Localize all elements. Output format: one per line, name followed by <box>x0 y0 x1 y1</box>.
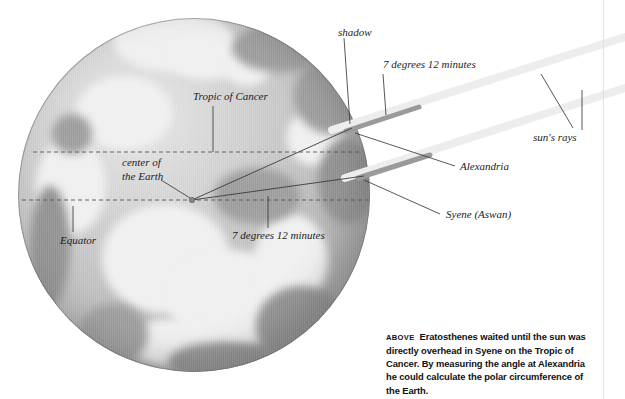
label-syene: Syene (Aswan) <box>446 208 511 221</box>
caption-text: Eratosthenes waited until the sun was di… <box>386 331 586 396</box>
label-suns-rays: sun's rays <box>533 131 577 144</box>
suns-rays-beams <box>332 37 625 178</box>
leader-shadow <box>344 38 350 124</box>
angle-rays <box>192 128 364 200</box>
leader-lines <box>73 38 582 232</box>
label-center-of-the-earth-line1: center of <box>122 156 161 168</box>
page-rule <box>603 0 604 399</box>
caption-kicker: ABOVE <box>386 333 415 342</box>
figure-caption: ABOVE Eratosthenes waited until the sun … <box>386 330 586 397</box>
label-center-of-the-earth: center of the Earth <box>122 156 163 184</box>
label-tropic-of-cancer: Tropic of Cancer <box>193 90 268 103</box>
leader-center-of-earth <box>161 180 190 198</box>
label-equator: Equator <box>60 234 96 247</box>
label-center-of-the-earth-line2: the Earth <box>122 170 163 182</box>
label-angle-inner: 7 degrees 12 minutes <box>232 229 325 242</box>
label-alexandria: Alexandria <box>460 160 509 173</box>
label-shadow: shadow <box>338 26 372 39</box>
center-of-earth-point <box>189 197 194 202</box>
leader-suns-rays-upper <box>541 74 573 128</box>
leader-syene <box>364 180 440 214</box>
label-angle-outer: 7 degrees 12 minutes <box>383 58 476 71</box>
latitude-lines <box>22 152 369 200</box>
leader-angle-outer <box>383 74 386 115</box>
figure-canvas: Tropic of Cancer center of the Earth Equ… <box>0 0 625 399</box>
